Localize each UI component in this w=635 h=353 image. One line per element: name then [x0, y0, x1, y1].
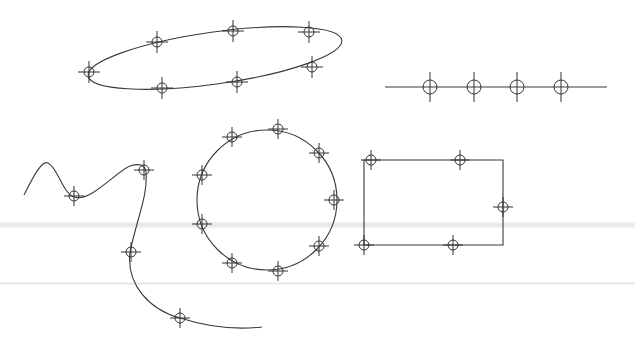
grip-point-marker[interactable]	[134, 160, 154, 180]
ellipse-shape[interactable]	[78, 14, 345, 101]
grip-point-marker[interactable]	[268, 261, 288, 281]
grip-point-marker[interactable]	[121, 242, 141, 262]
grip-point-marker[interactable]	[324, 190, 344, 210]
grip-point-marker[interactable]	[298, 21, 320, 43]
drawing-canvas	[0, 0, 635, 353]
grip-point-marker[interactable]	[354, 235, 374, 255]
spline-curve[interactable]	[24, 163, 262, 328]
grip-point-marker[interactable]	[493, 197, 513, 217]
grip-point-marker[interactable]	[450, 150, 470, 170]
circle-outline[interactable]	[197, 130, 337, 270]
line-shape[interactable]	[385, 72, 607, 102]
spline-shape[interactable]	[24, 160, 262, 328]
grip-point-marker[interactable]	[222, 20, 244, 42]
grip-point-marker[interactable]	[192, 214, 212, 234]
rectangle-shape[interactable]	[354, 150, 513, 255]
grip-point-marker[interactable]	[170, 308, 190, 328]
grip-point-marker[interactable]	[192, 165, 212, 185]
grip-point-marker[interactable]	[64, 186, 84, 206]
rectangle-outline[interactable]	[364, 160, 503, 245]
grip-point-marker[interactable]	[146, 31, 168, 53]
circle-shape[interactable]	[192, 119, 344, 281]
grip-point-marker[interactable]	[443, 235, 463, 255]
grip-point-marker[interactable]	[226, 71, 248, 93]
grip-point-marker[interactable]	[268, 119, 288, 139]
grip-point-marker[interactable]	[151, 77, 173, 99]
